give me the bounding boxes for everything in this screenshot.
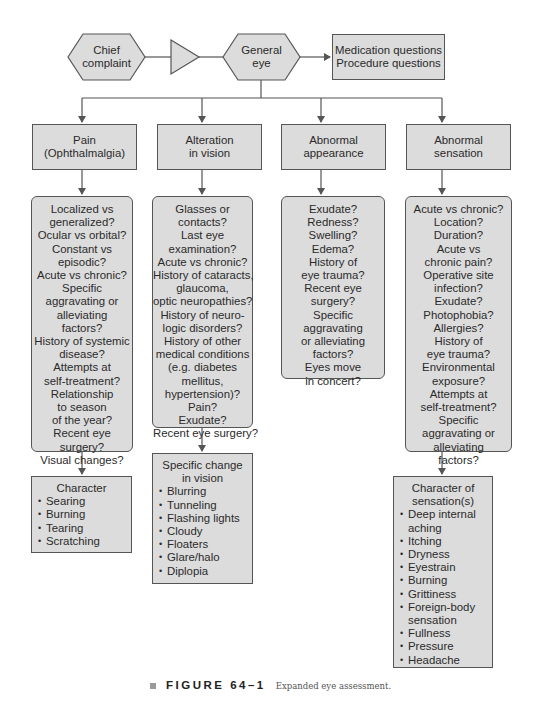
list-item: Deep internal bbox=[400, 508, 492, 521]
question-line: infection? bbox=[406, 282, 511, 295]
list-item: Eyestrain bbox=[400, 561, 492, 574]
pain-character-box: Character Searing Burning Tearing Scratc… bbox=[31, 476, 132, 553]
question-line: aggravating or bbox=[32, 295, 132, 308]
category-title-line: Abnormal bbox=[434, 134, 483, 147]
question-line: eye trauma? bbox=[406, 348, 511, 361]
question-line: exposure? bbox=[406, 375, 511, 388]
category-title-line: Pain bbox=[73, 134, 96, 147]
list-item: Diplopia bbox=[159, 565, 252, 578]
question-line: examination? bbox=[153, 243, 252, 256]
question-line: alleviating bbox=[32, 309, 132, 322]
question-line: Allergies? bbox=[406, 322, 511, 335]
detail-title: Character of bbox=[400, 482, 492, 495]
category-alteration-in-vision: Alteration in vision bbox=[157, 124, 262, 170]
general-eye-node: General eye bbox=[223, 34, 300, 80]
list-item: Foreign-body bbox=[400, 601, 492, 614]
question-line: Specific bbox=[406, 414, 511, 427]
question-line: Redness? bbox=[282, 216, 384, 229]
list-item: Scratching bbox=[38, 535, 131, 548]
question-line: Recent eye bbox=[32, 427, 132, 440]
question-line: Photophobia? bbox=[406, 309, 511, 322]
list-item: Dryness bbox=[400, 548, 492, 561]
question-line: Edema? bbox=[282, 243, 384, 256]
question-line: to season bbox=[32, 401, 132, 414]
chief-complaint-node: Chief complaint bbox=[68, 34, 145, 80]
list-item: Itching bbox=[400, 535, 492, 548]
list-item: Grittiness bbox=[400, 588, 492, 601]
question-line: Exudate? bbox=[406, 295, 511, 308]
triangle-connector bbox=[171, 40, 199, 74]
question-line: Recent eye surgery? bbox=[153, 427, 252, 440]
list-item: Searing bbox=[38, 495, 131, 508]
question-line: Exudate? bbox=[153, 414, 252, 427]
category-title-line: appearance bbox=[303, 147, 363, 160]
question-line: factors? bbox=[282, 348, 384, 361]
question-line: Relationship bbox=[32, 388, 132, 401]
list-item: Tearing bbox=[38, 522, 131, 535]
general-eye-line1: General bbox=[241, 44, 282, 57]
question-line: History of bbox=[282, 256, 384, 269]
category-title-line: sensation bbox=[434, 147, 483, 160]
question-line: Swelling? bbox=[282, 229, 384, 242]
question-line: History of systemic bbox=[32, 335, 132, 348]
medication-procedure-questions-box: Medication questions Procedure questions bbox=[332, 34, 445, 80]
medication-questions-text: Medication questions bbox=[335, 44, 442, 57]
appearance-questions-box: Exudate? Redness? Swelling? Edema? Histo… bbox=[281, 196, 385, 379]
question-line: surgery? bbox=[282, 295, 384, 308]
detail-title: sensation(s) bbox=[400, 495, 492, 508]
sensation-questions-box: Acute vs chronic? Location? Duration? Ac… bbox=[405, 196, 512, 452]
question-line: mellitus, bbox=[153, 375, 252, 388]
list-item: Burning bbox=[38, 508, 131, 521]
question-line: Duration? bbox=[406, 229, 511, 242]
list-item-continuation: sensation bbox=[400, 614, 492, 627]
question-line: Location? bbox=[406, 216, 511, 229]
question-line: Visual changes? bbox=[32, 454, 132, 467]
chief-complaint-line1: Chief bbox=[93, 44, 120, 57]
question-line: History of bbox=[406, 335, 511, 348]
question-line: Attempts at bbox=[406, 388, 511, 401]
question-line: self-treatment? bbox=[32, 375, 132, 388]
question-line: in concert? bbox=[282, 375, 384, 388]
question-line: Specific bbox=[32, 282, 132, 295]
question-line: Pain? bbox=[153, 401, 252, 414]
procedure-questions-text: Procedure questions bbox=[336, 57, 440, 70]
figure-caption: FIGURE 64–1Expanded eye assessment. bbox=[150, 679, 391, 691]
question-line: hypertension)? bbox=[153, 388, 252, 401]
list-item: Flashing lights bbox=[159, 512, 252, 525]
question-line: Acute vs bbox=[406, 243, 511, 256]
category-pain: Pain (Ophthalmalgia) bbox=[32, 124, 137, 170]
list-item: Tunneling bbox=[159, 499, 252, 512]
list-item-continuation: aching bbox=[400, 522, 492, 535]
sensation-character-box: Character of sensation(s) Deep internal … bbox=[393, 476, 493, 668]
question-line: chronic pain? bbox=[406, 256, 511, 269]
question-line: surgery? bbox=[32, 441, 132, 454]
question-line: alleviating bbox=[406, 441, 511, 454]
pain-questions-box: Localized vs generalized? Ocular vs orbi… bbox=[31, 196, 133, 452]
question-line: Acute vs chronic? bbox=[406, 203, 511, 216]
question-line: Constant vs bbox=[32, 243, 132, 256]
question-line: Specific bbox=[282, 309, 384, 322]
category-title-line: Abnormal bbox=[309, 134, 358, 147]
question-line: Eyes move bbox=[282, 361, 384, 374]
figure-label: FIGURE 64–1 bbox=[166, 679, 266, 691]
alteration-questions-box: Glasses or contacts? Last eye examinatio… bbox=[152, 196, 253, 428]
caption-square-icon bbox=[150, 683, 156, 689]
question-line: optic neuropathies? bbox=[153, 295, 252, 308]
question-line: Last eye bbox=[153, 229, 252, 242]
question-line: or alleviating bbox=[282, 335, 384, 348]
question-line: eye trauma? bbox=[282, 269, 384, 282]
question-line: Environmental bbox=[406, 361, 511, 374]
question-line: Ocular vs orbital? bbox=[32, 229, 132, 242]
question-line: History of neuro- bbox=[153, 309, 252, 322]
general-eye-line2: eye bbox=[252, 57, 270, 70]
question-line: Acute vs chronic? bbox=[32, 269, 132, 282]
detail-title: Specific change bbox=[159, 459, 252, 472]
list-item: Floaters bbox=[159, 538, 252, 551]
category-title-line: (Ophthalmalgia) bbox=[44, 147, 125, 160]
question-line: History of other bbox=[153, 335, 252, 348]
category-title-line: Alteration bbox=[185, 134, 233, 147]
question-line: (e.g. diabetes bbox=[153, 361, 252, 374]
question-line: logic disorders? bbox=[153, 322, 252, 335]
list-item: Burning bbox=[400, 574, 492, 587]
list-item: Glare/halo bbox=[159, 551, 252, 564]
